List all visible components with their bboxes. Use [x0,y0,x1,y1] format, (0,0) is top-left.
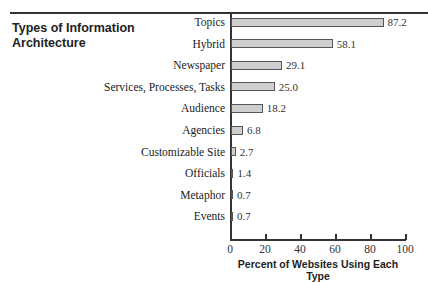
category-label: Newspaper [173,58,225,72]
value-label: 2.7 [240,145,254,159]
bar [231,169,233,178]
x-tick-label: 80 [355,243,385,255]
value-label: 18.2 [267,101,286,115]
category-label: Topics [195,15,226,29]
value-label: 87.2 [388,15,407,29]
bar [231,39,333,48]
x-axis-label: Percent of Websites Using Each Type [230,258,406,282]
bar [231,147,236,156]
x-tick [265,234,267,240]
value-label: 1.4 [237,166,251,180]
bar [231,126,243,135]
bar [231,61,282,70]
chart-title: Types of Information Architecture [12,21,152,51]
category-label: Audience [181,101,225,115]
bar [231,190,233,199]
category-label: Customizable Site [141,145,225,159]
x-tick-label: 60 [320,243,350,255]
x-tick [300,234,302,240]
x-tick-label: 100 [390,243,420,255]
value-label: 25.0 [279,80,298,94]
bar [231,212,233,221]
x-tick-label: 0 [215,243,245,255]
x-tick-label: 40 [285,243,315,255]
x-tick-label: 20 [250,243,280,255]
value-label: 6.8 [247,123,261,137]
category-label: Events [194,209,225,223]
x-axis [230,239,406,241]
category-label: Metaphor [180,188,225,202]
category-label: Services, Processes, Tasks [104,80,225,94]
top-rule [10,12,428,14]
bar [231,82,275,91]
x-tick [230,234,232,240]
category-label: Officials [185,166,225,180]
value-label: 0.7 [237,188,251,202]
category-label: Hybrid [192,37,225,51]
x-tick [370,234,372,240]
value-label: 29.1 [286,58,305,72]
value-label: 0.7 [237,209,251,223]
category-label: Agencies [182,123,225,137]
x-tick [335,234,337,240]
bar [231,18,384,27]
bar [231,104,263,113]
value-label: 58.1 [337,37,356,51]
x-tick [405,234,407,240]
